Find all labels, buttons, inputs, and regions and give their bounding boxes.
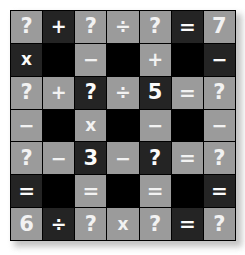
cell-r4c2 [43, 110, 74, 142]
cell-r4c1[interactable]: − [11, 110, 42, 142]
cell-r6c7[interactable]: = [204, 175, 235, 207]
cell-r3c7[interactable]: ? [204, 77, 235, 109]
cell-r3c1[interactable]: ? [11, 77, 42, 109]
cell-r6c2 [43, 175, 74, 207]
cell-r1c6[interactable]: = [172, 11, 203, 43]
cell-r3c2[interactable]: + [43, 77, 74, 109]
cell-r7c5[interactable]: ? [140, 208, 171, 240]
cell-r5c1[interactable]: ? [11, 142, 42, 174]
cell-r4c4 [107, 110, 138, 142]
cell-r4c6 [172, 110, 203, 142]
cell-r1c7[interactable]: 7 [204, 11, 235, 43]
cell-r1c1[interactable]: ? [11, 11, 42, 43]
cell-r7c1[interactable]: 6 [11, 208, 42, 240]
cell-r6c5[interactable]: = [140, 175, 171, 207]
cell-r6c4 [107, 175, 138, 207]
math-puzzle-grid: ?+?÷?=7x−+−?+?÷5=?−x−−?−3−?=?====6÷?x?=? [10, 10, 236, 241]
cell-r4c7[interactable]: − [204, 110, 235, 142]
cell-r2c4 [107, 44, 138, 76]
cell-r5c6[interactable]: = [172, 142, 203, 174]
cell-r3c4[interactable]: ÷ [107, 77, 138, 109]
cell-r7c6[interactable]: = [172, 208, 203, 240]
cell-r7c3[interactable]: ? [75, 208, 106, 240]
cell-r5c7[interactable]: ? [204, 142, 235, 174]
cell-r7c4[interactable]: x [107, 208, 138, 240]
cell-r1c5[interactable]: ? [140, 11, 171, 43]
cell-r2c2 [43, 44, 74, 76]
cell-r4c3[interactable]: x [75, 110, 106, 142]
cell-r5c5[interactable]: ? [140, 142, 171, 174]
cell-r7c7[interactable]: ? [204, 208, 235, 240]
cell-r3c3[interactable]: ? [75, 77, 106, 109]
cell-r2c1[interactable]: x [11, 44, 42, 76]
cell-r2c6 [172, 44, 203, 76]
cell-r5c3[interactable]: 3 [75, 142, 106, 174]
cell-r4c5[interactable]: − [140, 110, 171, 142]
cell-r3c6[interactable]: = [172, 77, 203, 109]
puzzle-stage: ?+?÷?=7x−+−?+?÷5=?−x−−?−3−?=?====6÷?x?=? [0, 0, 245, 255]
cell-r2c7[interactable]: − [204, 44, 235, 76]
cell-r2c5[interactable]: + [140, 44, 171, 76]
cell-r6c6 [172, 175, 203, 207]
cell-r5c4[interactable]: − [107, 142, 138, 174]
cell-r7c2[interactable]: ÷ [43, 208, 74, 240]
cell-r6c1[interactable]: = [11, 175, 42, 207]
cell-r2c3[interactable]: − [75, 44, 106, 76]
cell-r1c2[interactable]: + [43, 11, 74, 43]
cell-r6c3[interactable]: = [75, 175, 106, 207]
cell-r1c4[interactable]: ÷ [107, 11, 138, 43]
cell-r1c3[interactable]: ? [75, 11, 106, 43]
cell-r3c5[interactable]: 5 [140, 77, 171, 109]
cell-r5c2[interactable]: − [43, 142, 74, 174]
